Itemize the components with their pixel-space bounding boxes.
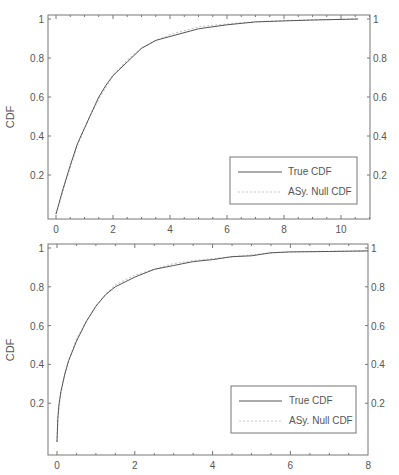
y-tick-label-left: 0.4 — [30, 359, 44, 370]
null-cdf-line — [57, 251, 368, 442]
y-tick-label-right: 0.4 — [373, 131, 387, 142]
legend-true-label: True CDF — [289, 395, 333, 406]
x-tick-label: 8 — [365, 460, 371, 471]
y-axis-label: CDF — [4, 338, 16, 361]
top-cdf-chart: 0246810 0.20.20.40.40.60.60.80.811 CDF T… — [0, 0, 399, 237]
y-tick-label-left: 0.2 — [30, 398, 44, 409]
y-tick-label-right: 0.8 — [371, 282, 385, 293]
y-axis-ticks: 0.20.20.40.40.60.60.80.811 — [30, 243, 385, 409]
x-tick-label: 2 — [110, 224, 116, 235]
y-tick-label-left: 0.6 — [30, 321, 44, 332]
x-axis-ticks: 02468 — [54, 244, 371, 471]
x-tick-label: 0 — [54, 460, 60, 471]
y-tick-label-left: 1 — [38, 243, 44, 254]
y-tick-label-left: 0.2 — [30, 170, 44, 181]
x-tick-label: 4 — [210, 460, 216, 471]
y-tick-label-right: 1 — [371, 243, 377, 254]
x-tick-label: 10 — [335, 224, 347, 235]
y-tick-label-left: 0.8 — [30, 282, 44, 293]
legend-null-label: ASy. Null CDF — [288, 186, 352, 197]
legend: True CDF ASy. Null CDF — [231, 386, 356, 433]
y-tick-label-right: 1 — [373, 14, 379, 25]
legend-true-label: True CDF — [288, 166, 332, 177]
y-tick-label-right: 0.8 — [373, 53, 387, 64]
y-tick-label-left: 0.8 — [30, 53, 44, 64]
legend-null-label: ASy. Null CDF — [289, 415, 353, 426]
y-tick-label-left: 0.4 — [30, 131, 44, 142]
y-axis-ticks: 0.20.20.40.40.60.60.80.811 — [30, 14, 387, 181]
y-tick-label-right: 0.4 — [371, 359, 385, 370]
y-tick-label-left: 1 — [38, 14, 44, 25]
y-tick-label-right: 0.6 — [371, 321, 385, 332]
legend: True CDF ASy. Null CDF — [230, 157, 357, 204]
plot-frame — [48, 244, 368, 455]
y-axis-label: CDF — [4, 105, 16, 128]
x-tick-label: 6 — [288, 460, 294, 471]
y-tick-label-left: 0.6 — [30, 92, 44, 103]
y-tick-label-right: 0.6 — [373, 92, 387, 103]
x-tick-label: 8 — [281, 224, 287, 235]
x-tick-label: 2 — [132, 460, 138, 471]
x-tick-label: 6 — [224, 224, 230, 235]
y-tick-label-right: 0.2 — [373, 170, 387, 181]
y-tick-label-right: 0.2 — [371, 398, 385, 409]
top-chart-svg: 0246810 0.20.20.40.40.60.60.80.811 CDF T… — [0, 0, 399, 237]
x-tick-label: 4 — [167, 224, 173, 235]
x-tick-label: 0 — [53, 224, 59, 235]
legend-box — [231, 386, 356, 433]
true-cdf-line — [57, 251, 368, 442]
